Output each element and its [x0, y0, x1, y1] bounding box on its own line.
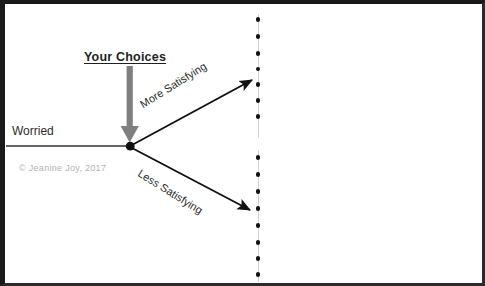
your-choices-arrow: [121, 66, 139, 143]
copyright-notice: © Jeanine Joy, 2017: [19, 163, 106, 173]
more-satisfying-arrow: [132, 80, 252, 145]
diagram-figure: Your Choices Worried More Satisfying Les…: [0, 0, 485, 286]
diagram-canvas: Your Choices Worried More Satisfying Les…: [0, 0, 485, 286]
diagram-vector-layer: [0, 0, 485, 286]
your-choices-label: Your Choices: [84, 50, 166, 64]
choice-node: [126, 142, 135, 151]
worried-label: Worried: [12, 124, 54, 138]
